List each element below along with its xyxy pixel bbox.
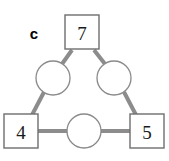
circle-node-left[interactable] bbox=[36, 61, 70, 95]
circle-node-bottom-shape bbox=[67, 114, 101, 148]
edge-top-to-right bbox=[94, 50, 105, 64]
circle-node-bottom[interactable] bbox=[67, 114, 101, 148]
square-node-bottom-right-value: 5 bbox=[142, 122, 152, 143]
edge-right-to-bottom-right bbox=[124, 92, 136, 115]
circle-node-right[interactable] bbox=[97, 61, 131, 95]
edge-top-to-left bbox=[62, 50, 72, 64]
square-node-top-value: 7 bbox=[77, 23, 87, 44]
puzzle-figure: 7 4 5 c bbox=[0, 0, 169, 161]
edge-left-to-bottom-left bbox=[32, 92, 44, 115]
circle-node-right-shape bbox=[97, 61, 131, 95]
circle-node-group bbox=[36, 61, 131, 148]
circle-node-left-shape bbox=[36, 61, 70, 95]
square-node-top[interactable]: 7 bbox=[65, 15, 99, 49]
diagram-canvas: 7 4 5 c bbox=[0, 0, 169, 161]
square-node-bottom-left-value: 4 bbox=[16, 122, 26, 143]
panel-label: c bbox=[30, 25, 38, 42]
square-node-bottom-left[interactable]: 4 bbox=[4, 114, 38, 148]
square-node-bottom-right[interactable]: 5 bbox=[130, 114, 164, 148]
